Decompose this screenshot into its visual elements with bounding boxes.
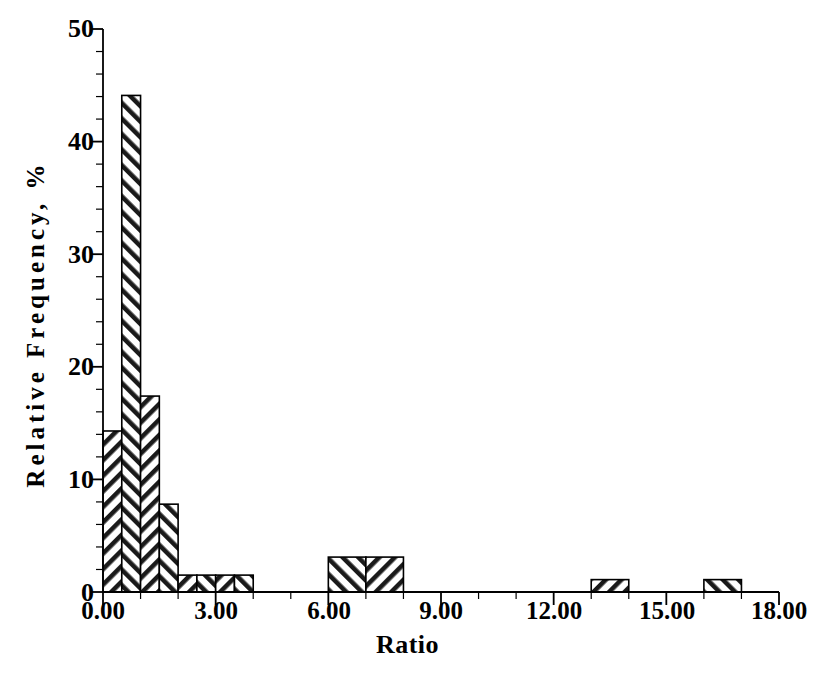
- x-axis-tick-labels: 0.00 3.00 6.00 9.00 12.00 15.00 18.00: [0, 0, 815, 682]
- x-tick-label-9: 9.00: [381, 598, 501, 623]
- x-tick-label-15: 15.00: [607, 598, 727, 623]
- x-tick-label-3: 3.00: [156, 598, 276, 623]
- x-axis-title: Ratio: [0, 630, 815, 660]
- histogram-figure: Relative Frequency, % 50 40 30 20 10 0 0…: [0, 0, 815, 682]
- x-tick-label-6: 6.00: [269, 598, 389, 623]
- x-tick-label-12: 12.00: [494, 598, 614, 623]
- x-tick-label-18: 18.00: [719, 598, 815, 623]
- x-tick-label-0: 0.00: [43, 598, 163, 623]
